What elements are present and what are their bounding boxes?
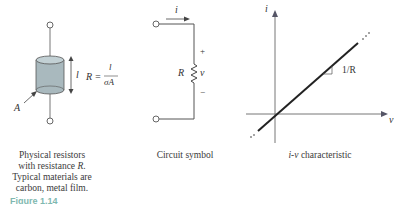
- formula-lhs: R =: [86, 71, 101, 82]
- formula-denominator: σA: [104, 77, 114, 87]
- caption-line: Physical resistors: [2, 150, 102, 161]
- caption-text: .: [83, 161, 85, 171]
- caption-text: with resistance: [18, 161, 77, 171]
- area-label: A: [14, 102, 20, 113]
- voltage-label: v: [200, 67, 204, 78]
- circuit-symbol: [153, 17, 197, 123]
- caption-text: characteristic: [299, 150, 352, 160]
- symbol-caption: Circuit symbol: [140, 150, 230, 161]
- caption-var: i-v: [288, 150, 298, 160]
- caption-line: Typical materials are: [2, 172, 102, 183]
- formula-numerator: l: [109, 62, 112, 72]
- current-label: i: [175, 4, 178, 15]
- physical-caption: Physical resistors with resistance R. Ty…: [2, 150, 102, 194]
- length-label: l: [76, 69, 79, 80]
- iv-caption: i-v characteristic: [270, 150, 370, 161]
- resistor-label: R: [178, 67, 184, 78]
- slope-label: 1/R: [342, 65, 356, 75]
- y-axis-label: i: [265, 3, 268, 14]
- x-axis-label: v: [389, 114, 393, 125]
- iv-chart: [246, 10, 388, 143]
- physical-resistor: [24, 22, 118, 124]
- figure-caption: Figure 1.14: [10, 196, 58, 204]
- plus-sign: +: [200, 46, 205, 56]
- caption-line: with resistance R.: [2, 161, 102, 172]
- minus-sign: −: [200, 87, 205, 97]
- caption-line: carbon, metal film.: [2, 183, 102, 194]
